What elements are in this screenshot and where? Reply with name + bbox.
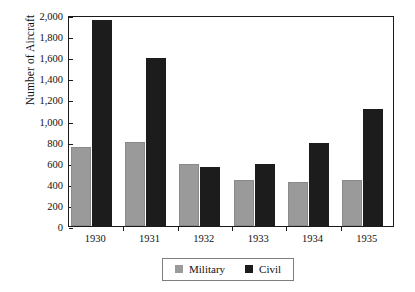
y-tick-text: 800 (47, 137, 63, 150)
x-tick-mark (232, 226, 233, 231)
x-tick-mark (341, 226, 342, 231)
y-tick-text: 1,600 (39, 52, 63, 65)
plot-area: 02004006008001,0001,2001,4001,6001,8002,… (68, 16, 394, 227)
bar-military-1932 (179, 164, 199, 226)
x-tick-label-1932: 1932 (177, 232, 231, 246)
civil-swatch (245, 265, 253, 273)
y-tick-text: 2,000 (39, 10, 63, 23)
bar-military-1931 (125, 142, 145, 226)
bar-series-container (69, 17, 393, 226)
legend-label: Military (189, 262, 225, 276)
y-tick-text: 600 (47, 158, 63, 171)
bar-civil-1935 (363, 109, 383, 226)
y-tick-text: 1,800 (39, 31, 63, 44)
bar-chart-figure: Number of Aircraft 02004006008001,0001,2… (0, 0, 415, 292)
bar-military-1934 (288, 182, 308, 226)
bar-group (123, 17, 177, 226)
x-tick-mark (178, 226, 179, 231)
x-tick-mark (123, 226, 124, 231)
x-tick-mark (286, 226, 287, 231)
y-tick-text: 200 (47, 200, 63, 213)
x-tick-label-1934: 1934 (286, 232, 340, 246)
bar-group (286, 17, 340, 226)
bar-civil-1933 (255, 164, 275, 226)
bar-military-1933 (234, 180, 254, 226)
bar-military-1930 (71, 147, 91, 226)
military-swatch (175, 265, 183, 273)
y-axis-title: Number of Aircraft (20, 0, 40, 150)
legend-item-civil[interactable]: Civil (245, 262, 281, 276)
chart-legend: MilitaryCivil (162, 258, 294, 281)
legend-item-military[interactable]: Military (175, 262, 225, 276)
bar-civil-1932 (200, 167, 220, 226)
x-tick-label-1931: 1931 (123, 232, 177, 246)
y-tick-text: 0 (58, 221, 63, 234)
bar-military-1935 (342, 180, 362, 226)
y-tick-text: 400 (47, 179, 63, 192)
bar-group (232, 17, 286, 226)
legend-label: Civil (259, 262, 281, 276)
bar-group (69, 17, 123, 226)
bar-civil-1930 (92, 20, 112, 226)
x-tick-label-1933: 1933 (231, 232, 285, 246)
y-tick-text: 1,400 (39, 73, 63, 86)
bar-group (341, 17, 395, 226)
y-tick-mark (69, 228, 73, 229)
y-tick-text: 1,000 (39, 116, 63, 129)
bar-civil-1934 (309, 143, 329, 226)
x-tick-label-1935: 1935 (340, 232, 394, 246)
bar-group (178, 17, 232, 226)
bar-civil-1931 (146, 58, 166, 226)
x-tick-label-1930: 1930 (68, 232, 122, 246)
y-tick-text: 1,200 (39, 94, 63, 107)
